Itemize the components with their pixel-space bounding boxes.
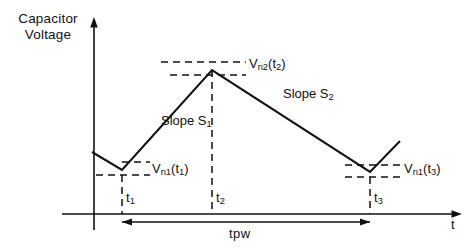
tick-label-t3: t3: [374, 190, 383, 207]
y-axis-title-line2: Voltage: [25, 27, 71, 42]
x-axis-label: t: [451, 217, 455, 232]
label-tpw: tpw: [229, 226, 250, 241]
capacitor-voltage-figure: Capacitor Voltage Vn2(t2) Vn1(t1) Vn1(t3…: [0, 0, 470, 252]
tick-label-t1: t1: [126, 190, 135, 207]
y-axis-title: Capacitor Voltage: [8, 11, 88, 43]
label-vn2-t2: Vn2(t2): [249, 56, 286, 73]
label-vn1-t1: Vn1(t1): [152, 161, 189, 178]
label-vn1-t3: Vn1(t3): [404, 161, 441, 178]
capacitor-voltage-trace: [92, 70, 400, 172]
label-slope-s2: Slope S2: [283, 86, 334, 103]
label-slope-s1: Slope S1: [161, 113, 212, 130]
tpw-arrowhead-right: [360, 219, 370, 226]
tick-label-t2: t2: [216, 190, 225, 207]
y-axis-title-line1: Capacitor: [18, 11, 78, 26]
y-axis: [90, 17, 98, 230]
tpw-dimension-line: [122, 219, 370, 226]
tpw-arrowhead-left: [122, 219, 132, 226]
y-axis-arrowhead: [90, 17, 98, 28]
